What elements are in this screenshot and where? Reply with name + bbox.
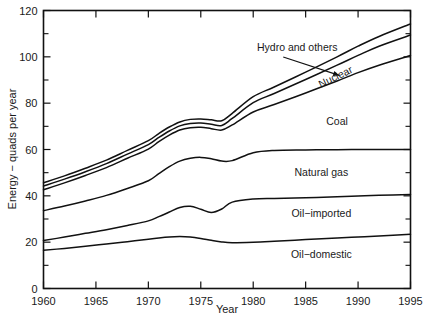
x-tick-label: 1985 xyxy=(293,295,317,307)
series-label-oil-imported: Oil−imported xyxy=(291,207,351,219)
x-tick-label: 1975 xyxy=(189,295,213,307)
x-tick-label: 1960 xyxy=(31,295,55,307)
x-tick-label: 1995 xyxy=(398,295,422,307)
energy-sources-line-chart: 020406080100120 196019651970197519801985… xyxy=(0,0,436,317)
series-label-coal: Coal xyxy=(326,115,348,127)
y-tick-label: 100 xyxy=(19,51,37,63)
y-axis-title: Energy − quads per year xyxy=(6,88,18,209)
x-tick-label: 1990 xyxy=(346,295,370,307)
y-tick-label: 60 xyxy=(25,144,37,156)
y-tick-label: 0 xyxy=(31,283,37,295)
chart-container: 020406080100120 196019651970197519801985… xyxy=(0,0,436,317)
series-label-natural-gas: Natural gas xyxy=(295,166,349,178)
x-axis-title: Year xyxy=(216,303,239,315)
series-label-hydro-and-others: Hydro and others xyxy=(257,41,338,53)
y-tick-label: 80 xyxy=(25,97,37,109)
y-tick-label: 40 xyxy=(25,190,37,202)
chart-background xyxy=(0,0,436,317)
x-tick-label: 1980 xyxy=(241,295,265,307)
x-tick-label: 1970 xyxy=(136,295,160,307)
y-tick-label: 20 xyxy=(25,236,37,248)
y-tick-label: 120 xyxy=(19,5,37,17)
x-tick-label: 1965 xyxy=(84,295,108,307)
series-label-oil-domestic: Oil−domestic xyxy=(291,248,352,260)
